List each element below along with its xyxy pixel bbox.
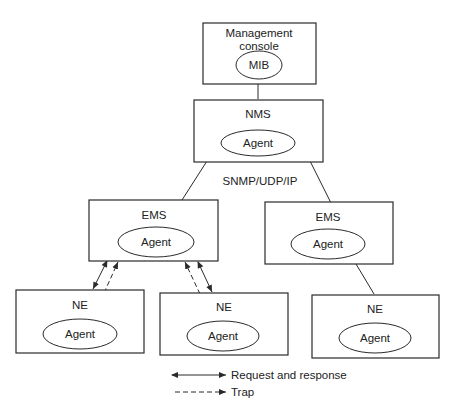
nms-agent-label: Agent	[243, 136, 273, 150]
edge-nms-ems-left	[182, 161, 207, 200]
ne-middle-title: NE	[216, 300, 232, 314]
edge-nms-ems-right	[310, 161, 331, 203]
ne-middle-agent-label: Agent	[208, 329, 238, 343]
protocol-label: SNMP/UDP/IP	[223, 174, 298, 188]
ne-left-agent-label: Agent	[65, 327, 95, 341]
ems-left-agent-label: Agent	[141, 235, 171, 249]
ems-right-agent-label: Agent	[313, 237, 343, 251]
console-title-line2: console	[239, 39, 279, 53]
trap-arrow	[104, 262, 118, 293]
ems-right-title: EMS	[316, 210, 341, 224]
request-response-arrow	[93, 261, 107, 289]
edge-ems-right-ne-right	[356, 264, 374, 294]
console-title-line1: Management	[225, 26, 292, 40]
ne-right-agent-label: Agent	[360, 331, 390, 345]
legend-trap-label: Trap	[231, 385, 254, 399]
ne-right-title: NE	[367, 302, 383, 316]
mib-label: MIB	[249, 58, 269, 72]
ems-left-title: EMS	[142, 208, 167, 222]
ne-left-title: NE	[72, 298, 88, 312]
legend-request-response-label: Request and response	[231, 368, 347, 382]
trap-arrow	[185, 262, 200, 294]
request-response-arrow	[198, 262, 212, 292]
snmp-hierarchy-diagram: Management console MIB NMS Agent SNMP/UD…	[0, 0, 459, 417]
nms-title: NMS	[245, 107, 271, 121]
diagram-graphics	[0, 0, 459, 417]
